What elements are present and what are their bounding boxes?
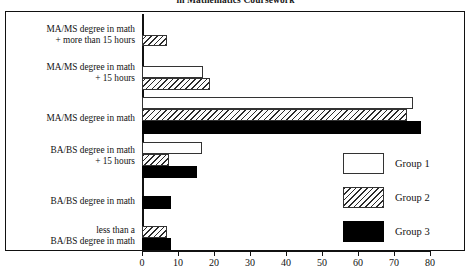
legend-item-group3: Group 3 (343, 220, 453, 242)
bar-cat2-group3 (142, 121, 421, 134)
bar-cat4-group3 (142, 196, 171, 209)
x-tick-label-5: 50 (317, 257, 327, 268)
bar-cat3-group1 (142, 142, 202, 154)
bar-cat5-group2 (142, 226, 167, 238)
legend-label-group2: Group 2 (395, 192, 430, 203)
x-tick-label-8: 80 (425, 257, 435, 268)
x-tick-label-3: 30 (245, 257, 255, 268)
category-label-3: BA/BS degree in math + 15 hours (7, 145, 135, 166)
x-tick-label-0: 0 (140, 257, 145, 268)
x-tick-3 (250, 251, 251, 256)
x-tick-label-6: 60 (353, 257, 363, 268)
legend-swatch-group1 (343, 153, 384, 174)
x-tick-label-2: 20 (209, 257, 219, 268)
chart-legend: Group 1 Group 2 Group 3 (343, 152, 453, 254)
category-label-4: BA/BS degree in math (7, 196, 135, 207)
x-tick-label-4: 40 (281, 257, 291, 268)
bar-cat1-group1 (142, 66, 203, 78)
legend-label-group3: Group 3 (395, 226, 430, 237)
x-tick-1 (178, 251, 179, 256)
x-tick-0 (142, 251, 143, 256)
chart-plot-area: 0 10 20 30 40 50 60 70 80 MA/MS degree i… (0, 0, 471, 274)
bar-cat2-group2 (142, 109, 407, 121)
x-tick-4 (286, 251, 287, 256)
legend-swatch-group2 (343, 187, 384, 208)
bar-cat5-group3 (142, 238, 171, 250)
bar-cat3-group3 (142, 166, 197, 178)
legend-item-group1: Group 1 (343, 152, 453, 174)
category-label-2: MA/MS degree in math (7, 113, 135, 124)
bar-cat0-group2 (142, 35, 167, 46)
category-label-0: MA/MS degree in math + more than 15 hour… (7, 24, 135, 45)
bar-cat1-group2 (142, 78, 210, 90)
legend-label-group1: Group 1 (395, 158, 430, 169)
category-label-1: MA/MS degree in math + 15 hours (7, 62, 135, 83)
x-tick-label-1: 10 (173, 257, 183, 268)
x-tick-5 (322, 251, 323, 256)
legend-swatch-group3 (343, 221, 384, 242)
category-label-5: less than a BA/BS degree in math (7, 225, 135, 246)
bar-cat2-group1 (142, 97, 413, 109)
bar-cat3-group2 (142, 154, 169, 166)
legend-item-group2: Group 2 (343, 186, 453, 208)
x-tick-2 (214, 251, 215, 256)
x-tick-label-7: 70 (389, 257, 399, 268)
